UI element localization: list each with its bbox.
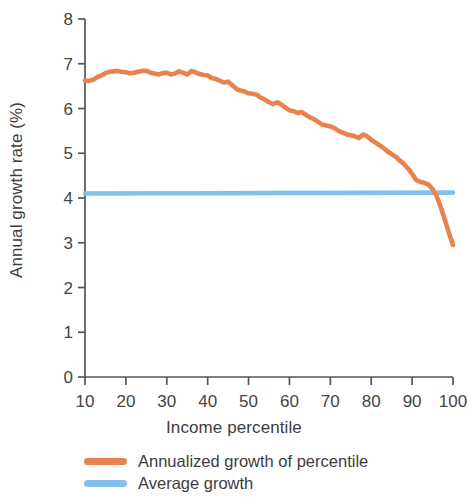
y-tick-label: 4 [64,189,73,208]
legend-label-average-growth: Average growth [138,474,253,493]
y-axis-title: Annual growth rate (%) [7,102,27,278]
x-tick-label: 30 [157,392,176,411]
series-line-annualized-growth [85,71,453,245]
x-tick-label: 80 [362,392,381,411]
y-tick-label: 7 [64,55,73,74]
y-tick-label: 2 [64,279,73,298]
x-tick-label: 50 [239,392,258,411]
legend-item-annualized-growth: Annualized growth of percentile [84,452,384,471]
x-tick-label: 70 [321,392,340,411]
y-tick-label: 1 [64,323,73,342]
y-axis-title-container: Annual growth rate (%) [0,0,34,380]
x-tick-label: 10 [76,392,95,411]
y-tick-label: 3 [64,234,73,253]
legend-label-annualized-growth: Annualized growth of percentile [138,452,368,471]
y-tick-label: 0 [64,368,73,387]
x-axis-title: Income percentile [166,418,302,437]
x-tick-label: 100 [439,392,467,411]
legend-swatch-average-growth [84,480,127,487]
legend-item-average-growth: Average growth [84,474,384,493]
legend-swatch-annualized-growth [84,458,127,465]
chart-legend: Annualized growth of percentile Average … [0,452,468,493]
x-tick-label: 40 [198,392,217,411]
y-tick-label: 8 [64,10,73,29]
y-tick-label: 6 [64,100,73,119]
x-tick-label: 90 [403,392,422,411]
x-tick-label: 60 [280,392,299,411]
x-tick-label: 20 [116,392,135,411]
y-tick-label: 5 [64,144,73,163]
chart-plot-area: 012345678102030405060708090100 [0,0,468,420]
x-axis-title-container: Income percentile [0,418,468,438]
series-line-average-growth [85,193,453,194]
chart-figure: 012345678102030405060708090100 Annual gr… [0,0,468,500]
